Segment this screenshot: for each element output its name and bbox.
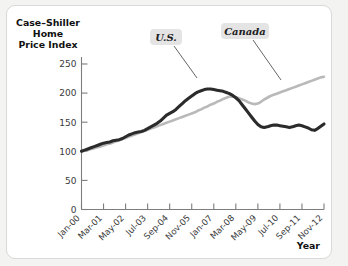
- y-tick-label: 150: [59, 118, 76, 128]
- x-axis-title: Year: [296, 240, 321, 251]
- y-axis-ticks: 050100150200250: [59, 59, 87, 215]
- us-callout[interactable]: U.S.: [150, 29, 182, 45]
- x-tick-label: Nov-05: [163, 213, 192, 242]
- y-axis-title-line-2: Home: [33, 28, 63, 39]
- y-tick-label: 50: [65, 176, 77, 186]
- x-tick-label: Nov-12: [296, 213, 325, 242]
- y-axis-title: Case–Shiller Home Price Index: [16, 17, 80, 50]
- y-axis-title-line-1: Case–Shiller: [16, 17, 80, 28]
- y-axis-title-line-3: Price Index: [18, 39, 77, 50]
- canada-callout-label: Canada: [224, 26, 266, 37]
- canada-callout-leader-line: [253, 40, 281, 80]
- us-callout-leader-line: [174, 46, 197, 78]
- y-tick-label: 250: [59, 59, 76, 69]
- figure-card: Case–Shiller Home Price Index 0501001502…: [6, 5, 332, 259]
- line-chart: Case–Shiller Home Price Index 0501001502…: [7, 6, 333, 260]
- y-tick-label: 100: [59, 147, 76, 157]
- canada-callout[interactable]: Canada: [221, 23, 269, 39]
- y-tick-label: 200: [59, 88, 76, 98]
- us-callout-label: U.S.: [155, 32, 177, 43]
